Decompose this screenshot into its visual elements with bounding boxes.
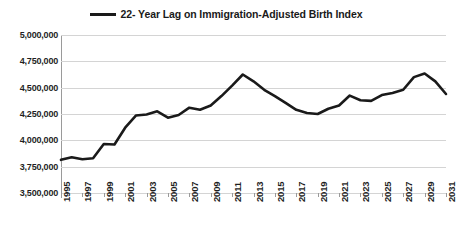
x-axis-tick-label: 2025: [382, 182, 393, 202]
x-axis-tick-label: 1999: [104, 182, 115, 202]
y-axis-tick-label: 3,750,000: [0, 162, 58, 172]
y-axis-tick-label: 5,000,000: [0, 30, 58, 40]
x-axis-tick-label: 2019: [318, 182, 329, 202]
x-axis-tick-label: 1995: [61, 182, 72, 202]
y-axis-tick-label: 4,000,000: [0, 135, 58, 145]
y-axis-tick-label: 3,500,000: [0, 188, 58, 198]
x-axis-tick-label: 1997: [82, 182, 93, 202]
series-line-group: [61, 35, 446, 193]
x-axis-tick-label: 2001: [125, 182, 136, 202]
series-line-22-year-lag: [61, 73, 446, 159]
x-axis-tick-label: 2005: [168, 182, 179, 202]
x-axis-labels: 1995199719992001200320052007200920112013…: [61, 196, 447, 252]
y-axis-tick-label: 4,500,000: [0, 83, 58, 93]
y-axis-labels: 5,000,0004,750,0004,500,0004,250,0004,00…: [0, 35, 58, 193]
y-axis-tick-label: 4,750,000: [0, 56, 58, 66]
x-axis-tick-label: 2029: [425, 182, 436, 202]
x-axis-tick-label: 2015: [275, 182, 286, 202]
x-axis-tick-label: 2013: [254, 182, 265, 202]
x-axis-tick-label: 2023: [360, 182, 371, 202]
y-axis-tick-label: 4,250,000: [0, 109, 58, 119]
x-axis-tick-label: 2027: [403, 182, 414, 202]
x-axis-tick-label: 2007: [189, 182, 200, 202]
x-axis-tick-label: 2009: [211, 182, 222, 202]
x-axis-tick-label: 2021: [339, 182, 350, 202]
x-axis-tick-label: 2017: [296, 182, 307, 202]
x-axis-tick-label: 2011: [232, 182, 243, 202]
plot-area: [61, 35, 446, 193]
legend-line-swatch: [90, 13, 116, 16]
legend-label: 22- Year Lag on Immigration-Adjusted Bir…: [121, 8, 363, 20]
chart-legend: 22- Year Lag on Immigration-Adjusted Bir…: [0, 8, 452, 20]
x-axis-tick-label: 2031: [446, 182, 457, 202]
x-axis-tick-label: 2003: [147, 182, 158, 202]
